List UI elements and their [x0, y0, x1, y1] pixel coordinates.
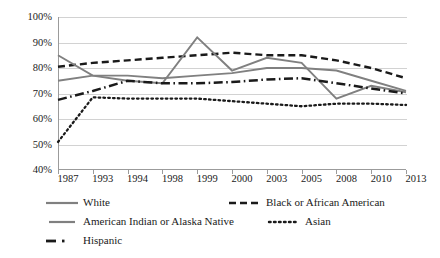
- y-tick-label: 80%: [33, 63, 52, 73]
- plot-area: [58, 17, 406, 170]
- y-tick-label: 100%: [28, 12, 53, 22]
- legend-item-american-indian-or-alaska-native[interactable]: American Indian or Alaska Native: [45, 215, 234, 228]
- dashdot-line-swatch: [45, 235, 79, 246]
- x-tick-label: 1993: [92, 173, 113, 185]
- dotted-line-swatch: [267, 216, 301, 227]
- gridline: [59, 94, 407, 95]
- x-tick-label: 2005: [301, 173, 322, 185]
- solid-line-swatch: [45, 216, 79, 227]
- dashed-line-swatch: [228, 197, 262, 208]
- gridline: [59, 145, 407, 146]
- y-tick-label: 60%: [33, 114, 52, 124]
- x-tick-label: 1999: [197, 173, 218, 185]
- x-tick-label: 2000: [232, 173, 253, 185]
- legend-label: American Indian or Alaska Native: [83, 215, 234, 228]
- gridline: [59, 119, 407, 120]
- solid-line-swatch: [45, 197, 79, 208]
- legend-label: White: [83, 196, 110, 209]
- x-tick-label: 2013: [406, 173, 427, 185]
- y-tick-label: 70%: [33, 89, 52, 99]
- x-axis-labels: 1987 1993 1994 1998 1999 2000 2003 2005 …: [58, 173, 406, 187]
- legend-item-hispanic[interactable]: Hispanic: [45, 234, 122, 247]
- gridline: [59, 17, 407, 18]
- y-tick-label: 40%: [33, 165, 52, 175]
- legend-item-asian[interactable]: Asian: [267, 215, 331, 228]
- legend-label: Hispanic: [83, 234, 122, 247]
- x-tick-label: 2008: [336, 173, 357, 185]
- x-tick-label: 1987: [58, 173, 79, 185]
- legend-label: Black or African American: [266, 196, 385, 209]
- x-tick-label: 1998: [162, 173, 183, 185]
- y-tick-label: 50%: [33, 140, 52, 150]
- legend-item-white[interactable]: White: [45, 196, 110, 209]
- x-tick-label: 1994: [127, 173, 148, 185]
- chart-legend: White Black or African American American…: [45, 196, 435, 254]
- gridline: [59, 43, 407, 44]
- legend-item-black-or-african-american[interactable]: Black or African American: [228, 196, 385, 209]
- x-tick-label: 2010: [371, 173, 392, 185]
- gridline: [59, 68, 407, 69]
- legend-label: Asian: [305, 215, 331, 228]
- y-tick-label: 90%: [33, 38, 52, 48]
- chart-container: 100% 90% 80% 70% 60% 50% 40% 1987 1993: [0, 0, 440, 258]
- x-tick-label: 2003: [266, 173, 287, 185]
